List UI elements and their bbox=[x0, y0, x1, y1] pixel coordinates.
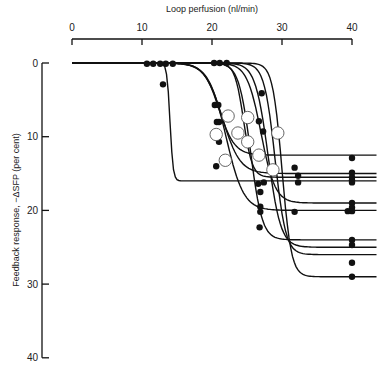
data-point-open bbox=[222, 110, 234, 122]
y-tick-label: 10 bbox=[27, 131, 39, 142]
data-point-open bbox=[253, 149, 265, 161]
data-point-filled bbox=[291, 164, 297, 170]
data-point-filled bbox=[349, 260, 355, 266]
data-point-filled bbox=[349, 155, 355, 161]
y-axis-label: Feedback response, −ΔSFP (per cent) bbox=[11, 133, 21, 287]
data-point-filled bbox=[217, 60, 223, 66]
curves bbox=[72, 63, 377, 277]
data-point-filled bbox=[261, 179, 267, 185]
data-point-filled bbox=[150, 61, 156, 67]
y-axis: 010203040 bbox=[27, 58, 49, 364]
data-point-open bbox=[232, 127, 244, 139]
data-point-filled bbox=[215, 102, 221, 108]
response-curve bbox=[72, 63, 377, 155]
data-point-filled bbox=[216, 119, 222, 125]
x-tick-label: 40 bbox=[346, 22, 358, 33]
data-point-filled bbox=[295, 179, 301, 185]
x-axis-label: Loop perfusion (nl/min) bbox=[166, 4, 258, 14]
data-point-filled bbox=[291, 209, 297, 215]
data-point-open bbox=[210, 128, 222, 140]
response-curve bbox=[72, 63, 377, 203]
y-tick-label: 20 bbox=[27, 205, 39, 216]
data-point-filled bbox=[349, 179, 355, 185]
data-point-filled bbox=[255, 181, 261, 187]
data-point-filled bbox=[345, 208, 351, 214]
x-tick-label: 20 bbox=[206, 22, 218, 33]
chart: Loop perfusion (nl/min) 010203040 010203… bbox=[0, 0, 390, 369]
response-curve bbox=[72, 63, 377, 240]
data-point-filled bbox=[256, 118, 262, 124]
data-point-filled bbox=[349, 242, 355, 248]
data-point-filled bbox=[349, 274, 355, 280]
x-tick-label: 10 bbox=[136, 22, 148, 33]
data-point-filled bbox=[259, 90, 265, 96]
data-point-open bbox=[219, 154, 231, 166]
data-point-filled bbox=[257, 209, 263, 215]
y-tick-label: 40 bbox=[27, 352, 39, 363]
data-point-filled bbox=[213, 163, 219, 169]
data-point-filled bbox=[144, 61, 150, 67]
response-curve bbox=[72, 63, 377, 277]
data-point-open bbox=[267, 164, 279, 176]
data-point-open bbox=[272, 127, 284, 139]
data-point-filled bbox=[211, 60, 217, 66]
data-point-filled bbox=[157, 61, 163, 67]
response-curve bbox=[72, 63, 377, 210]
data-point-open bbox=[242, 136, 254, 148]
y-tick-label: 0 bbox=[32, 58, 38, 69]
data-point-filled bbox=[256, 224, 262, 230]
x-tick-label: 30 bbox=[276, 22, 288, 33]
data-point-filled bbox=[260, 128, 266, 134]
data-point-filled bbox=[295, 173, 301, 179]
x-tick-label: 0 bbox=[69, 22, 75, 33]
y-tick-label: 30 bbox=[27, 279, 39, 290]
x-axis: 010203040 bbox=[69, 22, 358, 45]
data-point-open bbox=[242, 111, 254, 123]
data-point-filled bbox=[257, 189, 263, 195]
data-point-filled bbox=[224, 60, 230, 66]
data-point-filled bbox=[160, 81, 166, 87]
data-point-filled bbox=[170, 61, 176, 67]
data-point-filled bbox=[163, 61, 169, 67]
